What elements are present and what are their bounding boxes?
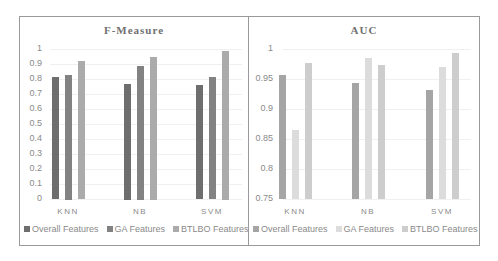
- y-tick-label: 0.8: [12, 73, 42, 83]
- y-tick-label: 0.2: [12, 163, 42, 173]
- bar: [65, 75, 72, 200]
- auc-chart: AUC Overall FeaturesGA FeaturesBTLBO Fea…: [248, 16, 480, 246]
- x-tick-label: SVM: [422, 207, 462, 216]
- legend-label: Overall Features: [32, 224, 99, 234]
- legend-item: Overall Features: [24, 224, 99, 234]
- gridline: [50, 49, 242, 50]
- bar: [305, 63, 312, 199]
- x-tick-label: SVM: [192, 207, 232, 216]
- legend-label: BTLBO Features: [410, 224, 478, 234]
- x-tick-label: KNN: [275, 207, 315, 216]
- bar: [124, 84, 131, 200]
- bar: [352, 83, 359, 199]
- x-tick-label: NB: [120, 207, 160, 216]
- gridline: [283, 199, 471, 200]
- bar: [150, 57, 157, 200]
- bar: [292, 130, 299, 199]
- legend-swatch-icon: [253, 226, 259, 232]
- chart-title: AUC: [249, 24, 479, 36]
- legend-swatch-icon: [336, 226, 342, 232]
- legend-swatch-icon: [24, 226, 30, 232]
- y-tick-label: 0.9: [243, 103, 273, 113]
- y-tick-label: 0.75: [243, 193, 273, 203]
- bar: [378, 65, 385, 199]
- y-tick-label: 0.7: [12, 88, 42, 98]
- f-measure-chart: F-Measure Overall FeaturesGA FeaturesBTL…: [19, 16, 249, 246]
- legend-label: GA Features: [115, 224, 166, 234]
- legend-label: Overall Features: [261, 224, 328, 234]
- legend-label: GA Features: [344, 224, 395, 234]
- legend-item: Overall Features: [253, 224, 328, 234]
- bar: [279, 75, 286, 199]
- legend-item: GA Features: [107, 224, 166, 234]
- y-tick-label: 0.95: [243, 73, 273, 83]
- y-tick-label: 0.6: [12, 103, 42, 113]
- legend-swatch-icon: [402, 226, 408, 232]
- y-tick-label: 0.9: [12, 58, 42, 68]
- legend-item: BTLBO Features: [173, 224, 249, 234]
- bar: [439, 67, 446, 199]
- bar: [209, 77, 216, 199]
- y-tick-label: 0.85: [243, 133, 273, 143]
- legend-label: BTLBO Features: [181, 224, 249, 234]
- legend-item: GA Features: [336, 224, 395, 234]
- y-tick-label: 1: [12, 43, 42, 53]
- bar: [365, 58, 372, 199]
- x-tick-label: KNN: [48, 207, 88, 216]
- legend: Overall FeaturesGA FeaturesBTLBO Feature…: [249, 224, 479, 234]
- bar: [137, 66, 144, 200]
- gridline: [50, 199, 242, 200]
- gridline: [283, 49, 471, 50]
- y-tick-label: 0.4: [12, 133, 42, 143]
- y-tick-label: 0.8: [243, 163, 273, 173]
- y-tick-label: 0.1: [12, 178, 42, 188]
- legend: Overall FeaturesGA FeaturesBTLBO Feature…: [20, 224, 248, 234]
- y-tick-label: 1: [243, 43, 273, 53]
- bar: [452, 53, 459, 199]
- y-tick-label: 0.5: [12, 118, 42, 128]
- bar: [426, 90, 433, 199]
- legend-swatch-icon: [107, 226, 113, 232]
- chart-title: F-Measure: [20, 24, 248, 36]
- legend-item: BTLBO Features: [402, 224, 478, 234]
- bar: [78, 61, 85, 199]
- bar: [196, 85, 203, 199]
- y-tick-label: 0.3: [12, 148, 42, 158]
- bar: [222, 51, 229, 200]
- x-tick-label: NB: [348, 207, 388, 216]
- y-tick-label: 0: [12, 193, 42, 203]
- bar: [52, 77, 59, 199]
- legend-swatch-icon: [173, 226, 179, 232]
